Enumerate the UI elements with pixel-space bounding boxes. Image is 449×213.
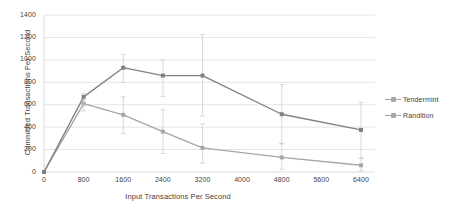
x-tick-label: 800 <box>69 176 99 183</box>
data-point <box>121 66 125 70</box>
data-point <box>42 170 46 174</box>
x-tick-label: 5600 <box>306 176 336 183</box>
data-point <box>359 128 363 132</box>
data-point <box>82 95 86 99</box>
legend-item-tendermint[interactable]: Tendermint <box>385 93 439 106</box>
x-tick-label: 1600 <box>108 176 138 183</box>
legend-label: Tendermint <box>403 96 439 103</box>
chart-svg <box>0 0 449 213</box>
data-point <box>121 113 125 117</box>
legend-marker-icon <box>385 112 401 120</box>
chart-figure: 0200400600800100012001400 08001600240032… <box>0 0 449 213</box>
x-tick-label: 4000 <box>227 176 257 183</box>
data-point <box>201 74 205 78</box>
x-tick-label: 6400 <box>346 176 376 183</box>
data-point <box>201 146 205 150</box>
data-point <box>161 130 165 134</box>
data-point <box>161 74 165 78</box>
x-axis-title: Input Transactions Per Second <box>48 192 308 201</box>
data-point <box>280 112 284 116</box>
y-axis-title: Committed Transactions Per Second <box>23 13 32 173</box>
legend-marker-icon <box>385 96 401 104</box>
x-tick-label: 2400 <box>148 176 178 183</box>
error-bar <box>200 124 205 163</box>
plot-area: 0200400600800100012001400 08001600240032… <box>0 0 449 213</box>
data-point <box>280 155 284 159</box>
legend-item-randition[interactable]: Randition <box>385 109 439 122</box>
x-tick-label: 0 <box>29 176 59 183</box>
x-tick-label: 3200 <box>188 176 218 183</box>
error-bar <box>160 60 165 96</box>
legend-label: Randition <box>403 112 433 119</box>
chart-legend: Tendermint Randition <box>385 93 439 125</box>
x-tick-label: 4800 <box>267 176 297 183</box>
data-point <box>359 163 363 167</box>
